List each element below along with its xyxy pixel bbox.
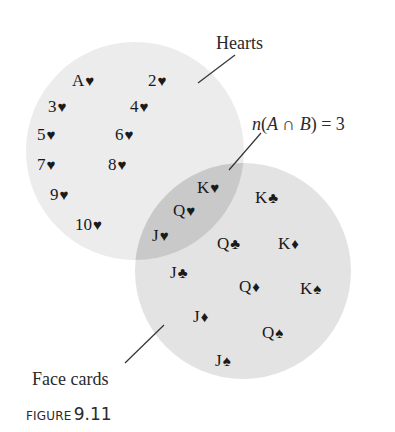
card-9-hearts: 9♥ [50, 186, 68, 204]
card-rank: 2 [148, 71, 157, 90]
heart-suit-icon: ♥ [93, 217, 102, 233]
card-queen-hearts: Q♥ [173, 202, 195, 220]
card-2-hearts: 2♥ [148, 72, 166, 90]
card-rank: K [278, 234, 290, 253]
card-5-hearts: 5♥ [37, 126, 55, 144]
figure-number: 9.11 [74, 404, 112, 424]
intersection-count-label: n(A ∩ B) = 3 [252, 115, 345, 133]
card-rank: J [215, 351, 222, 370]
card-rank: 8 [108, 155, 117, 174]
card-rank: Q [262, 323, 274, 342]
heart-suit-icon: ♥ [47, 127, 56, 143]
card-4-hearts: 4♥ [130, 98, 148, 116]
card-rank: K [300, 279, 312, 298]
card-rank: K [255, 188, 267, 207]
club-suit-icon: ♣ [230, 236, 240, 252]
card-rank: Q [173, 201, 185, 220]
n-function: n [252, 114, 261, 134]
card-rank: J [152, 226, 159, 245]
card-rank: 7 [37, 155, 46, 174]
card-rank: 9 [50, 185, 59, 204]
heart-suit-icon: ♥ [158, 73, 167, 89]
card-rank: J [193, 307, 200, 326]
card-rank: J [170, 263, 177, 282]
card-3-hearts: 3♥ [48, 98, 66, 116]
heart-suit-icon: ♥ [85, 73, 94, 89]
diamond-suit-icon: ♦ [201, 309, 209, 325]
card-queen-spades: Q♠ [262, 324, 283, 342]
spade-suit-icon: ♠ [223, 353, 231, 369]
card-queen-clubs: Q♣ [217, 235, 240, 253]
heart-suit-icon: ♥ [125, 127, 134, 143]
diamond-suit-icon: ♦ [252, 279, 260, 295]
card-jack-spades: J♠ [215, 352, 231, 370]
card-rank: 10 [75, 215, 92, 234]
card-rank: K [197, 178, 209, 197]
card-rank: 6 [115, 125, 124, 144]
heart-suit-icon: ♥ [160, 228, 169, 244]
face-cards-label: Face cards [32, 370, 108, 388]
card-rank: Q [239, 277, 251, 296]
heart-suit-icon: ♥ [60, 187, 69, 203]
card-jack-clubs: J♣ [170, 264, 187, 282]
card-10-hearts: 10♥ [75, 216, 102, 234]
card-rank: 4 [130, 97, 139, 116]
diamond-suit-icon: ♦ [291, 236, 299, 252]
intersection-set: A ∩ B [267, 114, 311, 134]
figure-caption-prefix: FIGURE [26, 409, 72, 423]
card-rank: 3 [48, 97, 57, 116]
card-rank: Q [217, 234, 229, 253]
club-suit-icon: ♣ [268, 190, 278, 206]
figure-caption: FIGURE9.11 [26, 404, 112, 424]
spade-suit-icon: ♠ [275, 325, 283, 341]
card-jack-hearts: J♥ [152, 227, 169, 245]
heart-suit-icon: ♥ [186, 203, 195, 219]
card-king-spades: K♠ [300, 280, 321, 298]
card-7-hearts: 7♥ [37, 156, 55, 174]
hearts-label: Hearts [216, 34, 263, 52]
card-ace-hearts: A♥ [72, 72, 94, 90]
card-rank: 5 [37, 125, 46, 144]
spade-suit-icon: ♠ [313, 281, 321, 297]
card-king-diamonds: K♦ [278, 235, 299, 253]
card-king-clubs: K♣ [255, 189, 278, 207]
card-6-hearts: 6♥ [115, 126, 133, 144]
card-jack-diamonds: J♦ [193, 308, 208, 326]
card-8-hearts: 8♥ [108, 156, 126, 174]
face-cards-leader-line [125, 325, 164, 363]
card-king-hearts: K♥ [197, 179, 219, 197]
heart-suit-icon: ♥ [118, 157, 127, 173]
club-suit-icon: ♣ [178, 265, 188, 281]
heart-suit-icon: ♥ [47, 157, 56, 173]
heart-suit-icon: ♥ [210, 180, 219, 196]
heart-suit-icon: ♥ [140, 99, 149, 115]
venn-diagram [0, 0, 395, 432]
card-queen-diamonds: Q♦ [239, 278, 260, 296]
equals-three: ) = 3 [311, 114, 345, 134]
heart-suit-icon: ♥ [58, 99, 67, 115]
card-rank: A [72, 71, 84, 90]
